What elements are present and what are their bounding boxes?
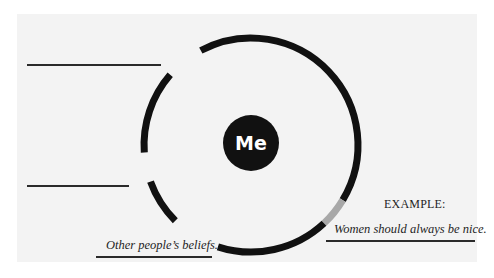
other-beliefs-underline <box>96 256 212 258</box>
example-text: Women should always be nice. <box>334 222 487 237</box>
me-circle: Me <box>223 115 279 171</box>
ring-left-lower-arc <box>151 182 176 221</box>
ring-highlight-arc <box>324 200 343 223</box>
ring-main-arc <box>201 38 358 200</box>
other-beliefs-label: Other people’s beliefs. <box>106 238 218 253</box>
middle-left-blank-line[interactable] <box>27 185 129 187</box>
ring-left-upper-arc <box>144 75 170 153</box>
example-underline <box>326 240 475 242</box>
top-left-blank-line[interactable] <box>27 64 161 66</box>
me-label: Me <box>235 132 267 154</box>
example-heading: EXAMPLE: <box>384 197 446 212</box>
ring-bottom-arc <box>218 223 324 252</box>
